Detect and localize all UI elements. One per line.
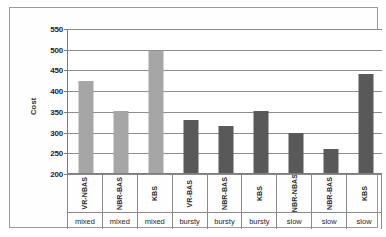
x-axis-series-label: VR-NBAS xyxy=(81,177,88,210)
chart-frame: Cost 550500450400350300250200 VR-NBASmix… xyxy=(9,7,378,228)
x-axis-group-label-cell: slow xyxy=(312,213,346,229)
x-axis-series-label-cell: NBR-BAS xyxy=(208,175,242,213)
x-axis-group-label-cell: slow xyxy=(277,213,311,229)
x-axis-category-column: NBR-BASslow xyxy=(312,175,347,229)
bar[interactable] xyxy=(288,133,303,173)
x-axis-series-label-cell: VR-NBAS xyxy=(68,175,102,213)
x-axis-category-column: KBSmixed xyxy=(138,175,173,229)
x-axis-group-label: mixed xyxy=(110,217,130,226)
x-axis-category-column: VR-BASbursty xyxy=(173,175,208,229)
bar-slot xyxy=(348,29,383,173)
bar[interactable] xyxy=(358,74,373,173)
bar-slot xyxy=(103,29,138,173)
x-axis-series-label: NBR-BAS xyxy=(221,177,228,210)
x-axis-category-column: VR-NBASmixed xyxy=(68,175,103,229)
x-axis-category-column: KBSbursty xyxy=(242,175,277,229)
x-axis-group-label: slow xyxy=(357,217,372,226)
x-axis-category-table: VR-NBASmixedNBR-BASmixedKBSmixedVR-BASbu… xyxy=(67,174,382,229)
bar[interactable] xyxy=(148,51,163,173)
x-axis-series-label-cell: NBR-NBAS xyxy=(277,175,311,213)
x-axis-group-label: bursty xyxy=(214,217,234,226)
bar[interactable] xyxy=(323,149,338,173)
bar-slot xyxy=(313,29,348,173)
x-axis-series-label: KBS xyxy=(256,186,263,201)
y-tick-label: 250 xyxy=(39,149,63,158)
x-axis-series-label: NBR-BAS xyxy=(326,177,333,210)
x-axis-category-column: NBR-BASbursty xyxy=(208,175,243,229)
x-axis-series-label-cell: KBS xyxy=(138,175,172,213)
x-axis-group-label-cell: mixed xyxy=(103,213,137,229)
x-axis-series-label-cell: NBR-BAS xyxy=(312,175,346,213)
y-tick-label: 300 xyxy=(39,128,63,137)
bar[interactable] xyxy=(253,111,268,173)
x-axis-group-label: mixed xyxy=(75,217,95,226)
bar-slot xyxy=(173,29,208,173)
bar[interactable] xyxy=(183,120,198,173)
x-axis-group-label: slow xyxy=(287,217,302,226)
x-axis-series-label: VR-BAS xyxy=(186,180,193,207)
bar-slot xyxy=(208,29,243,173)
y-tick-label: 450 xyxy=(39,66,63,75)
y-tick-label: 550 xyxy=(39,25,63,34)
x-axis-series-label: KBS xyxy=(151,186,158,201)
x-axis-series-label-cell: KBS xyxy=(242,175,276,213)
x-axis-category-column: NBR-BASmixed xyxy=(103,175,138,229)
x-axis-category-column: KBSslow xyxy=(347,175,382,229)
x-axis-group-label: bursty xyxy=(179,217,199,226)
x-axis-series-label-cell: VR-BAS xyxy=(173,175,207,213)
y-axis-title: Cost xyxy=(27,86,39,126)
x-axis-group-label: mixed xyxy=(145,217,165,226)
bar[interactable] xyxy=(78,81,93,173)
x-axis-series-label-cell: KBS xyxy=(347,175,381,213)
bar-series xyxy=(68,29,382,173)
x-axis-series-label: KBS xyxy=(361,186,368,201)
y-tick-label: 350 xyxy=(39,107,63,116)
plot-area xyxy=(67,29,382,174)
x-axis-series-label: NBR-BAS xyxy=(116,177,123,210)
bar-slot xyxy=(138,29,173,173)
x-axis-category-column: NBR-NBASslow xyxy=(277,175,312,229)
x-axis-group-label: slow xyxy=(322,217,337,226)
y-axis-tick-labels: 550500450400350300250200 xyxy=(39,29,63,174)
y-tick-label: 500 xyxy=(39,45,63,54)
x-axis-group-label-cell: slow xyxy=(347,213,381,229)
x-axis-series-label: NBR-NBAS xyxy=(291,175,298,213)
x-axis-group-label-cell: bursty xyxy=(242,213,276,229)
bar-slot xyxy=(243,29,278,173)
x-axis-group-label-cell: bursty xyxy=(208,213,242,229)
x-axis-group-label-cell: mixed xyxy=(68,213,102,229)
x-axis-group-label-cell: bursty xyxy=(173,213,207,229)
x-axis-group-label-cell: mixed xyxy=(138,213,172,229)
bar-slot xyxy=(278,29,313,173)
bar[interactable] xyxy=(113,111,128,173)
x-axis-series-label-cell: NBR-BAS xyxy=(103,175,137,213)
bar-slot xyxy=(68,29,103,173)
bar[interactable] xyxy=(218,126,233,173)
y-tick-label: 400 xyxy=(39,87,63,96)
x-axis-group-label: bursty xyxy=(249,217,269,226)
y-tick-label: 200 xyxy=(39,170,63,179)
